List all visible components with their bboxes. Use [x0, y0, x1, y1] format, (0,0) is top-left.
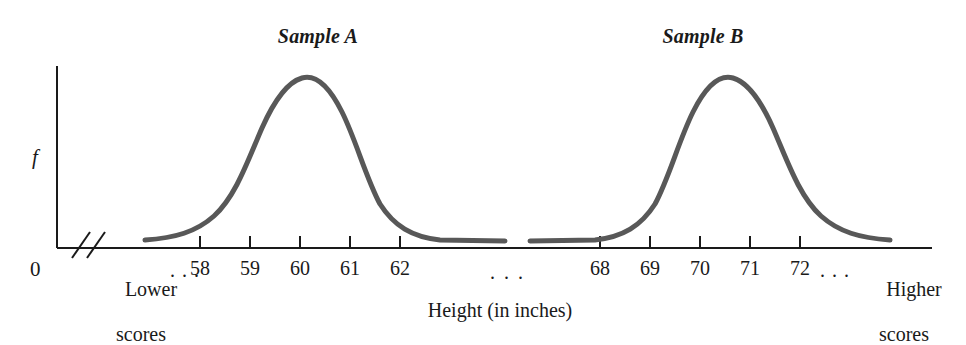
- curve-sample-a: [145, 77, 505, 241]
- trail-ellipsis-right: . . .: [820, 260, 850, 281]
- tick-label-72: 72: [780, 258, 820, 279]
- left-edge-label-line1: Lower: [125, 278, 177, 300]
- x-ticks-right: [600, 236, 800, 248]
- gap-ellipsis: . . .: [490, 262, 525, 283]
- right-edge-label-line1: Higher: [886, 278, 942, 300]
- x-axis-title: Height (in inches): [350, 300, 650, 321]
- x-ticks-left: [200, 236, 400, 248]
- tick-label-70: 70: [680, 258, 720, 279]
- axis-break-icon: [72, 232, 105, 258]
- tick-label-58: 58: [180, 258, 220, 279]
- curve-sample-b: [530, 77, 890, 241]
- tick-label-60: 60: [280, 258, 320, 279]
- curve-title-sample-a: Sample A: [258, 26, 378, 47]
- curve-title-sample-b: Sample B: [643, 26, 763, 47]
- tick-label-69: 69: [630, 258, 670, 279]
- right-edge-label: Higher scores: [856, 258, 952, 345]
- left-edge-label-line2: scores: [96, 324, 186, 345]
- origin-label: 0: [30, 258, 41, 280]
- y-axis-label: f: [32, 146, 38, 168]
- tick-label-68: 68: [580, 258, 620, 279]
- tick-label-71: 71: [730, 258, 770, 279]
- right-edge-label-line2: scores: [856, 324, 952, 345]
- tick-label-59: 59: [230, 258, 270, 279]
- tick-label-61: 61: [330, 258, 370, 279]
- tick-label-62: 62: [380, 258, 420, 279]
